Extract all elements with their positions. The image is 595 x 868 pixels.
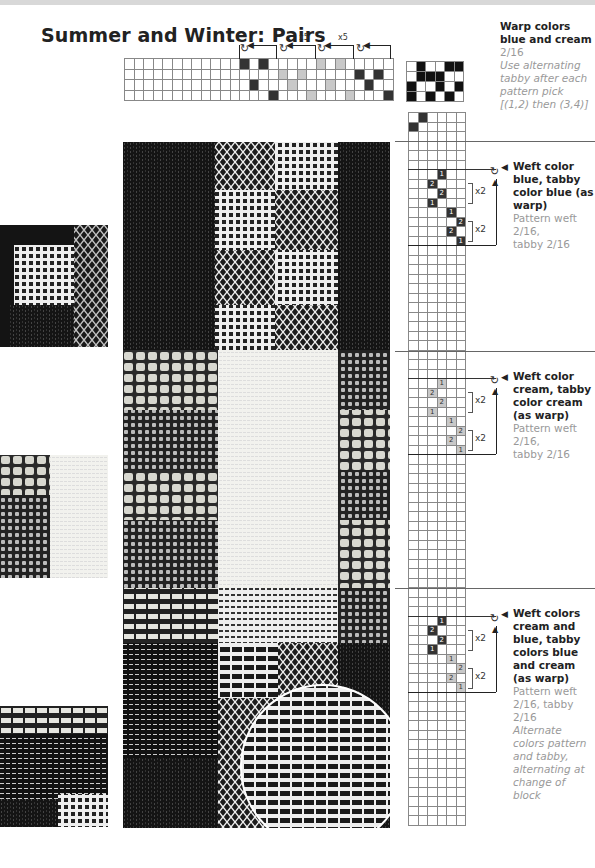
treadling-cell	[457, 379, 467, 389]
treadling-cell	[447, 294, 457, 304]
treadling-cell	[428, 218, 438, 228]
treadling-cell	[409, 759, 419, 769]
repeat-label: x2	[475, 395, 486, 405]
treadling-cell	[447, 645, 457, 655]
treadling-cell	[428, 170, 438, 180]
pointer-left-icon: ◀	[501, 161, 508, 174]
treadling-cell	[409, 797, 419, 807]
treadling-cell	[438, 579, 448, 589]
treadling-cell	[428, 512, 438, 522]
main-fabric-sample	[123, 142, 390, 828]
treadling-cell	[409, 731, 419, 741]
threading-cell	[336, 59, 346, 70]
treadling-cell	[419, 398, 429, 408]
treadling-cell	[447, 541, 457, 551]
treadling-cell	[428, 522, 438, 532]
treadling-cell	[447, 693, 457, 703]
treadling-cell	[438, 246, 448, 256]
treadling-cell	[457, 569, 467, 579]
treadling-cell	[457, 750, 467, 760]
treadling-cell	[428, 379, 438, 389]
treadling-cell	[419, 579, 429, 589]
tieup-cell	[445, 72, 455, 82]
treadling-cell	[428, 807, 438, 817]
treadling-cell	[438, 664, 448, 674]
treadling-cell	[409, 664, 419, 674]
treadling-cell	[428, 769, 438, 779]
treadling-cell	[409, 123, 419, 133]
treadling-cell	[409, 816, 419, 826]
threading-cell	[307, 91, 317, 102]
warp-info: Warp colors blue and cream 2/16 Use alte…	[500, 20, 595, 111]
threading-cell	[259, 70, 269, 81]
treadling-cell	[447, 389, 457, 399]
repeat-bracket	[468, 668, 473, 689]
treadling-cell	[409, 522, 419, 532]
treadling-cell	[409, 341, 419, 351]
treadling-cell	[428, 227, 438, 237]
repeat-bottom-line	[408, 454, 496, 455]
section-detail: Pattern weft	[513, 422, 595, 435]
treadling-cell	[438, 721, 448, 731]
treadling-cell	[447, 778, 457, 788]
treadling-cell	[409, 465, 419, 475]
treadling-cell	[409, 579, 419, 589]
treadling-cell	[419, 759, 429, 769]
treadling-cell	[419, 617, 429, 627]
tieup-cell	[417, 82, 427, 92]
treadling-cell	[428, 579, 438, 589]
treadling-cell	[419, 503, 429, 513]
treadling-cell	[409, 588, 419, 598]
repeat-bracket	[468, 630, 473, 651]
treadling-cell	[438, 408, 448, 418]
treadling-cell	[447, 341, 457, 351]
treadling-cell	[428, 503, 438, 513]
page-top-band	[0, 0, 595, 5]
treadling-cell	[409, 702, 419, 712]
treadling-cell	[428, 702, 438, 712]
treadling-cell	[447, 807, 457, 817]
threading-cell	[346, 59, 356, 70]
treadling-cell	[428, 474, 438, 484]
treadling-cell	[457, 541, 467, 551]
treadling-cell	[409, 427, 419, 437]
treadling-cell	[419, 341, 429, 351]
threading-cell	[231, 59, 241, 70]
treadling-cell	[447, 702, 457, 712]
treadling-cell	[428, 550, 438, 560]
treadling-cell	[409, 332, 419, 342]
swatch-cream-honeycomb	[0, 455, 108, 578]
treadling-cell	[438, 541, 448, 551]
treadling-cell	[447, 550, 457, 560]
treadling-cell	[457, 636, 467, 646]
threading-cell	[211, 80, 221, 91]
treadling-cell	[438, 427, 448, 437]
threading-cell	[317, 59, 327, 70]
treadling-cell	[419, 731, 429, 741]
treadling-cell	[447, 455, 457, 465]
threading-cell	[183, 59, 193, 70]
threading-cell	[125, 91, 135, 102]
section-note: Alternate colors pattern and tabby, alte…	[513, 724, 595, 802]
threading-cell	[144, 91, 154, 102]
threading-cell	[384, 80, 394, 91]
loop-icon: ↻	[490, 374, 499, 387]
treadling-cell	[457, 674, 467, 684]
threading-cell	[298, 80, 308, 91]
treadling-cell	[438, 645, 448, 655]
threading-cell	[211, 70, 221, 81]
treadling-cell	[409, 531, 419, 541]
treadling-cell	[428, 322, 438, 332]
treadling-cell	[419, 674, 429, 684]
treadling-cell: 2	[447, 436, 457, 446]
treadling-cell	[457, 227, 467, 237]
tieup-grid	[406, 61, 464, 102]
threading-cell	[240, 70, 250, 81]
treadling-cell	[409, 455, 419, 465]
treadling-cell	[447, 484, 457, 494]
treadling-cell	[438, 142, 448, 152]
threading-cell	[346, 70, 356, 81]
treadling-cell	[419, 246, 429, 256]
tieup-cell	[436, 72, 446, 82]
treadling-cell	[447, 284, 457, 294]
